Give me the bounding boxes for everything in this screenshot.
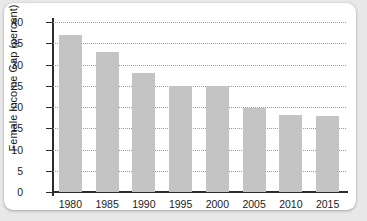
plot-area: Female Income Gap (percent) 051015202530… [52,22,346,192]
gridline [52,43,346,44]
x-axis-tick-label: 2015 [305,198,351,210]
y-axis-tick [46,65,53,66]
y-axis-tick-label: 20 [0,102,23,113]
bar-1985 [96,52,119,192]
bar-1990 [132,73,155,192]
y-axis-tick-label: 25 [0,81,23,92]
y-axis-tick-label: 0 [0,187,23,198]
y-axis-tick [46,192,53,193]
y-axis-tick-label: 30 [0,59,23,70]
y-axis-tick-label: 35 [0,38,23,49]
bar-2000 [206,86,229,192]
gridline [52,22,346,23]
bar-2015 [316,116,339,192]
chart-card: Female Income Gap (percent) 051015202530… [4,3,356,210]
y-axis-tick [46,86,53,87]
bar-1995 [169,86,192,192]
bar-2005 [243,108,266,192]
y-axis-tick-label: 5 [0,166,23,177]
y-axis-tick [46,107,53,108]
y-axis-tick [46,171,53,172]
y-axis-tick [46,43,53,44]
y-axis-tick [46,150,53,151]
bar-2010 [279,115,302,192]
y-axis-tick-label: 10 [0,144,23,155]
y-axis-tick [46,128,53,129]
y-axis-tick [46,22,53,23]
bar-1980 [59,35,82,192]
y-axis-tick-label: 15 [0,123,23,134]
y-axis-tick-label: 40 [0,17,23,28]
